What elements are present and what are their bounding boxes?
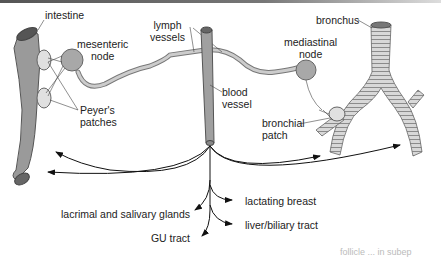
- bronchial-patch: [329, 107, 345, 121]
- homing-arrows: [48, 145, 400, 236]
- label-intestine: intestine: [45, 9, 84, 21]
- mediastinal-node: [296, 60, 316, 80]
- label-lymph-vessels: lymph vessels: [150, 19, 185, 43]
- footer-fragment: follicle ... in subep: [340, 247, 412, 257]
- label-lactating-breast: lactating breast: [245, 195, 316, 207]
- label-bronchus: bronchus: [316, 14, 359, 26]
- label-gu-tract: GU tract: [100, 232, 190, 244]
- label-mediastinal-node: mediastinal node: [284, 36, 337, 60]
- label-liver-biliary: liver/biliary tract: [245, 219, 318, 231]
- label-bronchial-patch: bronchial patch: [262, 117, 305, 141]
- label-peyers-patches: Peyer's patches: [80, 104, 117, 128]
- intestine: [13, 25, 51, 188]
- peyers-patch-lower: [37, 88, 51, 108]
- label-mesenteric-node: mesenteric node: [77, 38, 128, 62]
- label-blood-vessel: blood vessel: [222, 86, 252, 110]
- peyers-patch-upper: [37, 50, 51, 70]
- label-lacrimal-salivary: lacrimal and salivary glands: [57, 208, 190, 220]
